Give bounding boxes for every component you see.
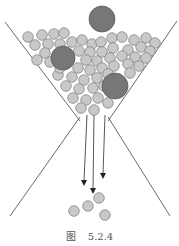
arrow-head-icon: [81, 180, 87, 186]
small-balls-upper: [23, 28, 161, 116]
hourglass-diagram: [0, 0, 179, 246]
funnel-left-lower-wall: [10, 117, 80, 216]
small-ball: [74, 46, 85, 57]
large-ball: [51, 46, 75, 70]
small-ball: [49, 29, 60, 40]
large-ball: [102, 73, 128, 99]
figure-caption: 图5.2.4: [0, 228, 179, 243]
small-ball: [67, 72, 78, 83]
small-ball: [76, 103, 87, 114]
small-ball: [67, 37, 78, 48]
small-ball: [32, 55, 43, 66]
small-ball: [134, 61, 145, 72]
small-ball: [83, 201, 94, 212]
small-ball: [117, 32, 128, 43]
small-ball: [125, 68, 136, 79]
small-ball: [96, 37, 107, 48]
small-ball: [93, 93, 104, 104]
small-ball: [73, 63, 84, 74]
small-ball: [89, 105, 100, 116]
falling-arrows: [81, 115, 106, 194]
small-ball: [100, 210, 111, 221]
small-ball: [61, 81, 72, 92]
small-ball: [108, 43, 119, 54]
small-ball: [68, 93, 79, 104]
small-ball: [107, 33, 118, 44]
small-ball: [88, 83, 99, 94]
small-balls-lower: [69, 193, 111, 221]
small-ball: [74, 84, 85, 95]
arrow-head-icon: [100, 173, 106, 179]
small-ball: [77, 35, 88, 46]
arrow-shaft: [103, 115, 105, 174]
small-ball: [103, 98, 114, 109]
small-ball: [81, 55, 92, 66]
caption-prefix: 图: [66, 231, 76, 242]
arrow-shaft: [84, 115, 87, 181]
arrow-shaft: [93, 115, 94, 189]
small-ball: [69, 206, 80, 217]
arrow-head-icon: [90, 188, 96, 194]
large-ball: [89, 6, 115, 32]
small-ball: [30, 40, 41, 51]
funnel-right-lower-wall: [108, 117, 170, 216]
small-ball: [94, 193, 105, 204]
caption-number: 5.2.4: [88, 231, 113, 242]
small-ball: [37, 30, 48, 41]
small-ball: [59, 28, 70, 39]
